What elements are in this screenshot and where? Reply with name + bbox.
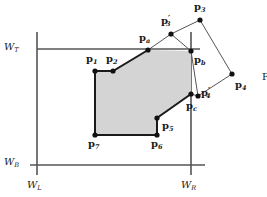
vertex-label-p3-prime: p′3 bbox=[161, 16, 175, 26]
vertex-label-pc: pc bbox=[186, 101, 197, 111]
vertex-dot-p3 bbox=[197, 17, 202, 22]
window-bottom-label: WB bbox=[4, 157, 19, 167]
vertex-label-p2: p2 bbox=[106, 54, 118, 64]
vertex-dot-p7 bbox=[92, 132, 97, 137]
vertex-label-p7: p7 bbox=[88, 139, 100, 149]
vertex-dot-pb bbox=[188, 48, 193, 53]
vertex-label-p4-prime: p′4 bbox=[201, 88, 215, 98]
window-right-label: WR bbox=[181, 180, 196, 190]
vertex-dot-pa bbox=[145, 47, 150, 52]
vertex-dot-p4 bbox=[229, 71, 234, 76]
vertex-dot-p3-prime bbox=[168, 31, 173, 36]
vertex-dot-p5 bbox=[154, 115, 159, 120]
caption-fragment: F bbox=[262, 72, 267, 82]
vertex-dot-p2 bbox=[110, 68, 115, 73]
vertex-dot-pc bbox=[188, 91, 193, 96]
window-top-label: WT bbox=[4, 42, 19, 52]
vertex-label-p1: p1 bbox=[86, 54, 98, 64]
vertex-label-p5: p5 bbox=[162, 121, 174, 131]
vertex-label-pa: pa bbox=[139, 33, 150, 43]
vertex-dot-p1 bbox=[92, 68, 97, 73]
vertex-dot-p6 bbox=[154, 132, 159, 137]
figure-polygon-clipping: WT WB WL WR p1 p2 pa p′3 p3 pb p4 p′4 pc… bbox=[0, 0, 267, 197]
diagram-canvas bbox=[0, 0, 267, 197]
vertex-label-pb: pb bbox=[194, 55, 206, 65]
window-left-label: WL bbox=[27, 180, 42, 190]
vertex-dot-p4-prime bbox=[195, 93, 200, 98]
vertex-label-p6: p6 bbox=[151, 139, 163, 149]
vertex-label-p4: p4 bbox=[235, 80, 247, 90]
vertex-label-p3: p3 bbox=[194, 2, 206, 12]
